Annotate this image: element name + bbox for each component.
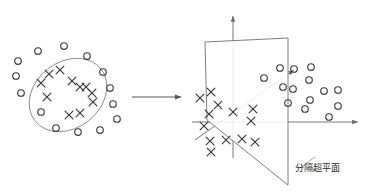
hyperplane-label: 分隔超平面 (295, 162, 340, 173)
diagram-canvas: 分隔超平面 (0, 0, 374, 193)
svm-kernel-trick-figure: 分隔超平面 (0, 0, 374, 193)
